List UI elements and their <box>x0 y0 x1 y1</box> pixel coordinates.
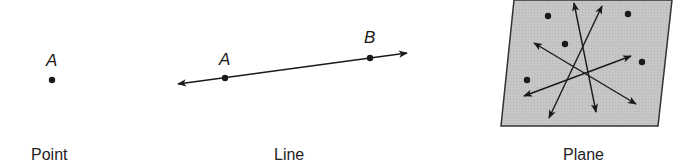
plane-dot <box>545 13 551 19</box>
line-point-b-dot <box>367 55 373 61</box>
plane-dot <box>625 11 631 17</box>
geometry-diagram: A Point A B Line Plane <box>0 0 695 165</box>
plane-figure: Plane <box>501 0 672 163</box>
plane-dot <box>639 59 645 65</box>
point-caption: Point <box>31 146 68 163</box>
line-point-b-label: B <box>364 28 375 47</box>
line-figure: A B Line <box>178 28 407 163</box>
line-caption: Line <box>274 146 304 163</box>
point-a-dot <box>49 77 55 83</box>
point-a-label: A <box>45 51 57 70</box>
line-point-a-label: A <box>218 50 230 69</box>
plane-caption: Plane <box>563 146 604 163</box>
point-figure: A Point <box>31 51 68 163</box>
plane-dot <box>562 41 568 47</box>
line-point-a-dot <box>222 75 228 81</box>
plane-dot <box>524 77 530 83</box>
